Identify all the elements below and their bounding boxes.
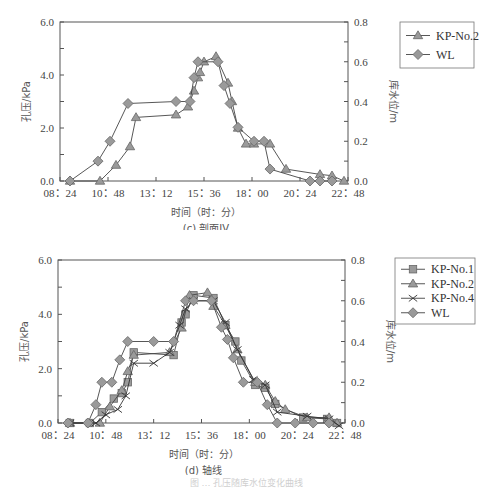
y2-tick-label: 0.6	[351, 295, 365, 307]
wl-marker-icon	[265, 164, 275, 174]
wl-marker-icon	[171, 97, 181, 107]
y-tick-label: 4.0	[38, 308, 52, 320]
y2-axis-label: 库水位/m	[385, 320, 397, 363]
kp-no-2-marker-icon	[189, 86, 198, 94]
legend-label: KP-No.2	[436, 29, 479, 43]
legend-label: KP-No.1	[431, 262, 474, 276]
y-tick-label: 0.0	[40, 175, 54, 187]
x-tick-label: 08：24	[42, 429, 76, 441]
wl-marker-icon	[105, 136, 115, 146]
wl-marker-icon	[123, 337, 133, 347]
kp-no-2-marker-icon	[125, 142, 134, 150]
x-tick-label: 08：24	[44, 187, 78, 199]
wl-marker-icon	[290, 418, 300, 428]
chart-d-axis: 0.02.04.06.00.00.20.40.60.808：2410：4813：…	[0, 240, 493, 475]
kp-no-2-marker-icon	[105, 402, 114, 410]
x-axis-label: 时间（时：分）	[169, 448, 239, 460]
wl-marker-icon	[262, 400, 272, 410]
legend-label: WL	[431, 306, 450, 320]
y-axis-label: 孔压/kPa	[19, 321, 30, 362]
y-axis-label: 孔压/kPa	[21, 81, 32, 122]
x-tick-label: 20：24	[284, 187, 318, 199]
x-tick-label: 15：36	[185, 429, 219, 441]
y2-tick-label: 0.0	[351, 417, 365, 429]
wl-marker-icon	[272, 418, 282, 428]
plot-area	[58, 260, 345, 423]
kp-no-2-marker-icon	[195, 68, 204, 76]
legend-label: KP-No.4	[431, 291, 474, 305]
kp-no-4-marker-icon	[114, 406, 122, 412]
x-tick-label: 13：12	[140, 187, 173, 199]
kp-no-2-marker-icon	[241, 139, 250, 147]
series-wl	[65, 57, 337, 186]
wl-marker-icon	[93, 156, 103, 166]
wl-marker-icon	[107, 377, 117, 387]
y2-axis-label: 库水位/m	[388, 80, 400, 123]
kp-no-2-marker-icon	[131, 113, 140, 121]
wl-marker-icon	[238, 377, 248, 387]
y2-tick-label: 0.4	[351, 336, 365, 348]
kp-no-2-marker-icon	[339, 176, 348, 184]
chart-c-section-iv: 0.02.04.06.00.00.20.40.60.808：2410：4813：…	[0, 0, 493, 230]
x-tick-label: 22：48	[329, 429, 363, 441]
y2-tick-label: 0.8	[351, 254, 365, 266]
legend: KP-No.1KP-No.2KP-No.4WL	[395, 258, 475, 324]
legend-label: KP-No.2	[431, 277, 474, 291]
x-tick-label: 15：36	[188, 187, 222, 199]
x-tick-label: 13：12	[137, 429, 170, 441]
y2-tick-label: 0.2	[351, 376, 365, 388]
y-tick-label: 2.0	[40, 122, 54, 134]
y-tick-label: 6.0	[40, 16, 54, 28]
y2-tick-label: 0.8	[354, 16, 368, 28]
y-tick-label: 4.0	[40, 69, 54, 81]
y-tick-label: 2.0	[38, 363, 52, 375]
x-tick-label: 18：00	[236, 187, 270, 199]
wl-marker-icon	[123, 98, 133, 108]
legend-kp-no-1-marker-icon	[409, 266, 416, 273]
x-tick-label: 10：48	[92, 187, 126, 199]
y2-tick-label: 0.0	[354, 175, 368, 187]
kp-no-2-marker-icon	[281, 405, 290, 413]
legend-label: WL	[436, 48, 455, 62]
series-kp-no-2	[65, 288, 341, 426]
x-tick-label: 22：48	[332, 187, 366, 199]
wl-marker-icon	[228, 353, 238, 363]
kp-no-2-marker-icon	[171, 110, 180, 118]
y2-tick-label: 0.4	[354, 96, 368, 108]
y2-tick-label: 0.2	[354, 135, 368, 147]
x-tick-label: 18：00	[233, 429, 267, 441]
wl-marker-icon	[97, 377, 107, 387]
y2-tick-label: 0.6	[354, 56, 368, 68]
kp-no-2-marker-icon	[111, 160, 120, 168]
plot-area	[60, 22, 348, 181]
y-tick-label: 0.0	[38, 417, 52, 429]
kp-no-2-marker-icon	[281, 164, 290, 172]
x-tick-label: 10：48	[89, 429, 123, 441]
wl-marker-icon	[305, 176, 315, 186]
y-tick-label: 6.0	[38, 254, 52, 266]
chart-subtitle: (d) 轴线	[185, 464, 222, 475]
x-tick-label: 20：24	[281, 429, 315, 441]
wl-marker-icon	[115, 355, 125, 365]
chart-subtitle: (c) 剖面IV	[183, 222, 229, 230]
kp-no-2-marker-icon	[203, 288, 212, 296]
figure-caption: 图 … 孔压随库水位变化曲线	[0, 476, 493, 489]
x-axis-label: 时间（时：分）	[171, 206, 241, 218]
legend: KP-No.2WL	[400, 22, 479, 68]
series-kp-no-2	[65, 52, 348, 184]
wl-marker-icon	[149, 337, 159, 347]
